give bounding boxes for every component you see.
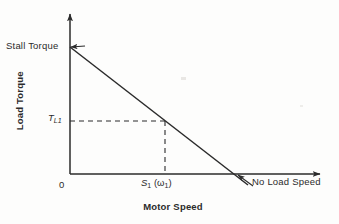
y-axis-tick-label-tl1: TL1	[48, 113, 62, 124]
stall-torque-leader-arrow	[71, 46, 85, 47]
origin-label: 0	[59, 180, 64, 190]
scan-speck	[300, 105, 303, 107]
stall-torque-annotation: Stall Torque	[6, 41, 58, 51]
s1-paren-close: )	[168, 177, 171, 188]
scan-speck	[181, 77, 186, 80]
no-load-speed-annotation: No Load Speed	[252, 177, 321, 187]
x-axis-tick-label-s1: S1 (ω1)	[141, 178, 172, 189]
s1-paren-open: (ω	[151, 177, 164, 188]
x-axis-title: Motor Speed	[118, 202, 228, 212]
no-load-speed-leader-arrow	[238, 175, 253, 186]
load-torque-line	[70, 47, 248, 185]
figure-canvas: Stall Torque Load Torque TL1 0 S1 (ω1) N…	[0, 0, 339, 224]
y-axis-title: Load Torque	[15, 61, 25, 141]
tl1-subscript: L1	[54, 117, 62, 124]
